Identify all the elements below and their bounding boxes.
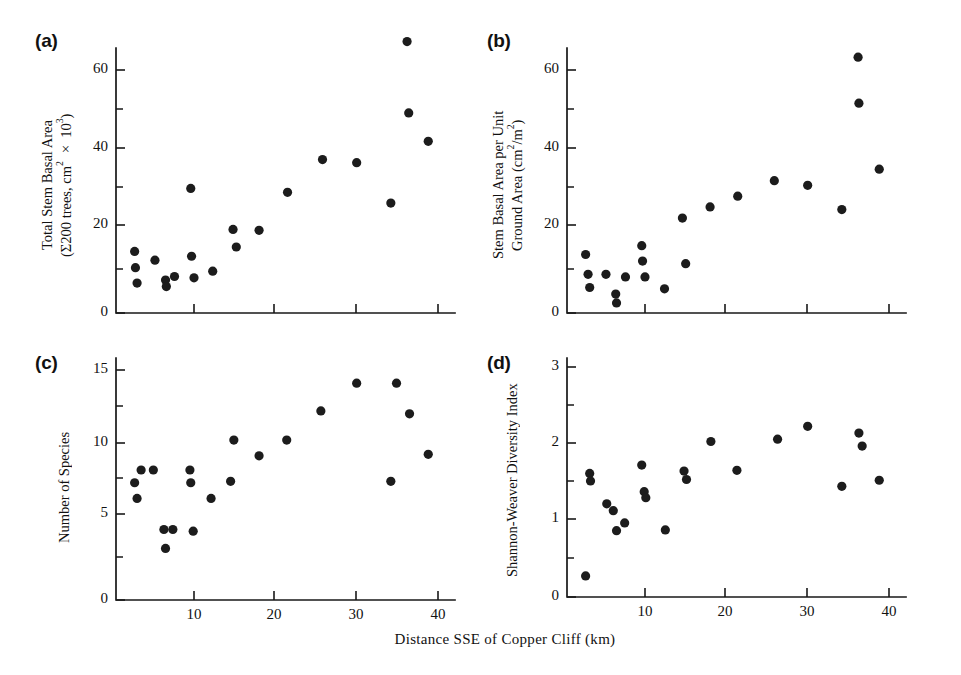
ytick-label: 20 (519, 215, 559, 232)
ytick-label: 0 (68, 303, 108, 320)
ytick-label: 10 (68, 433, 108, 450)
figure-xlabel: Distance SSE of Copper Cliff (km) (300, 631, 710, 648)
data-point (803, 422, 812, 431)
ytick-label: 3 (519, 357, 559, 374)
data-point (602, 499, 611, 508)
ytick-label: 40 (519, 138, 559, 155)
ytick-label: 60 (519, 60, 559, 77)
ytick-label: 0 (519, 303, 559, 320)
xtick-label: 20 (254, 606, 294, 623)
figure-container: (a) Total Stem Basal Area (Σ200 trees, c… (0, 0, 961, 675)
xtick-label: 20 (705, 603, 745, 620)
xtick-label: 40 (418, 606, 458, 623)
data-point (706, 437, 715, 446)
ytick-label: 5 (68, 504, 108, 521)
xtick-label: 40 (869, 603, 909, 620)
data-point (732, 466, 741, 475)
data-point (854, 429, 863, 438)
data-point (858, 441, 867, 450)
data-point (875, 476, 884, 485)
data-point (773, 435, 782, 444)
ytick-label: 40 (68, 138, 108, 155)
data-point (581, 571, 590, 580)
ytick-label: 0 (68, 590, 108, 607)
xtick-label: 30 (336, 606, 376, 623)
data-point (637, 460, 646, 469)
data-point (641, 493, 650, 502)
ytick-label: 60 (68, 60, 108, 77)
panel-d-plot-area (0, 0, 961, 675)
data-point (586, 476, 595, 485)
data-point (620, 518, 629, 527)
data-point (679, 467, 688, 476)
ytick-label: 15 (68, 360, 108, 377)
ytick-label: 1 (519, 509, 559, 526)
ytick-label: 20 (68, 215, 108, 232)
data-point (612, 526, 621, 535)
data-point (837, 482, 846, 491)
ytick-label: 0 (519, 587, 559, 604)
data-point (661, 525, 670, 534)
data-point (609, 506, 618, 515)
xtick-label: 10 (174, 606, 214, 623)
ytick-label: 2 (519, 433, 559, 450)
xtick-label: 10 (625, 603, 665, 620)
data-point (682, 475, 691, 484)
xtick-label: 30 (787, 603, 827, 620)
